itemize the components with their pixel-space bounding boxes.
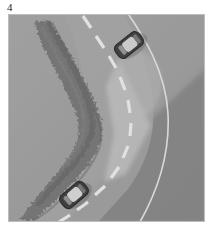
scene-illustration	[8, 14, 205, 222]
image-grain-overlay	[8, 14, 205, 222]
overhead-road-scene-panel	[8, 14, 205, 222]
figure-number-label: 4	[7, 0, 13, 14]
